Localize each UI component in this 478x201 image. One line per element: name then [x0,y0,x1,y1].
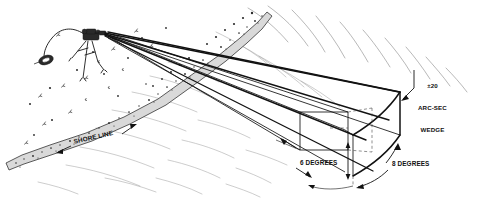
diagram-canvas [0,0,478,201]
wedge-tolerance-value: ±20 [418,82,447,89]
eight-degrees-label: 8 DEGREES [392,160,429,167]
six-degrees-label: 6 DEGREES [300,159,337,166]
wedge-step-diag [276,104,300,112]
wedge-tolerance-unit: ARC-SEC [418,104,447,111]
wedge-far-bottom-edge [353,135,400,176]
theodolite-instrument [34,29,107,81]
shore-line-band [6,12,272,170]
wedge-mid-edge-a [110,34,348,112]
wedge-far-top-edge [353,92,400,135]
figure-root: ±20 ARC-SEC WEDGE 6 DEGREES 8 DEGREES SH… [0,0,478,201]
wedge-label-leader [401,70,414,101]
wedge-tolerance-word: WEDGE [418,126,447,133]
wedge-hidden-c [348,150,372,152]
terrain-texture [24,27,167,144]
wedge-tolerance-label: ±20 ARC-SEC WEDGE [418,67,447,148]
